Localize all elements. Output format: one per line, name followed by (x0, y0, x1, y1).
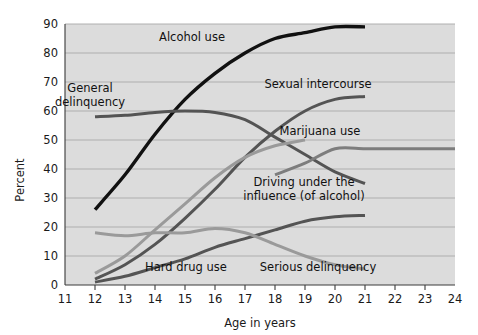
annotation-line: Hard drug use (145, 260, 227, 274)
x-tick-label: 14 (148, 292, 163, 306)
annotation-serious-delinquency: Serious delinquency (260, 260, 377, 274)
plot-area-background (65, 24, 455, 285)
annotation-line: Sexual intercourse (264, 77, 371, 91)
x-tick-label: 18 (268, 292, 283, 306)
x-tick-label: 11 (58, 292, 73, 306)
x-tick-label: 16 (208, 292, 223, 306)
chart-container: 0102030405060708090 11121314151617181920… (0, 0, 478, 335)
y-tick-label: 0 (51, 278, 58, 292)
annotation-line: Marijuana use (280, 124, 361, 138)
x-tick-label: 15 (178, 292, 193, 306)
x-tick-label: 19 (298, 292, 313, 306)
annotation-line: Serious delinquency (260, 260, 377, 274)
annotation-driving-under-influence: Driving under theinfluence (of alcohol) (243, 175, 364, 203)
x-tick-label: 13 (118, 292, 133, 306)
y-tick-label: 50 (43, 133, 58, 147)
annotation-line: Alcohol use (159, 30, 225, 44)
annotation-line: Driving under the (253, 175, 354, 189)
annotation-alcohol-use: Alcohol use (159, 30, 225, 44)
annotation-line: influence (of alcohol) (243, 189, 364, 203)
annotation-marijuana-use: Marijuana use (280, 124, 361, 138)
x-tick-label: 20 (328, 292, 343, 306)
annotation-line: delinquency (55, 95, 125, 109)
x-tick-label: 21 (358, 292, 373, 306)
y-tick-label: 90 (43, 17, 58, 31)
y-tick-label: 20 (43, 220, 58, 234)
y-axis-title: Percent (13, 158, 27, 202)
annotation-hard-drug-use: Hard drug use (145, 260, 227, 274)
y-tick-label: 30 (43, 191, 58, 205)
x-axis-title: Age in years (224, 316, 296, 330)
x-tick-label: 22 (388, 292, 403, 306)
y-tick-label: 40 (43, 162, 58, 176)
y-tick-label: 10 (43, 249, 58, 263)
x-tick-label: 24 (448, 292, 463, 306)
x-tick-label: 23 (418, 292, 433, 306)
y-tick-label: 80 (43, 46, 58, 60)
x-tick-label: 17 (238, 292, 253, 306)
annotation-line: General (67, 81, 112, 95)
annotation-sexual-intercourse: Sexual intercourse (264, 77, 371, 91)
x-tick-label: 12 (88, 292, 103, 306)
y-tick-label: 70 (43, 75, 58, 89)
line-chart: 0102030405060708090 11121314151617181920… (0, 0, 478, 335)
